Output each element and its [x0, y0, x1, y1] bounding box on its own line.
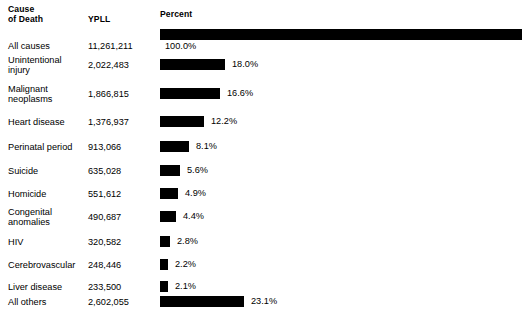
row-label-cause-line1: Unintentional — [8, 55, 62, 65]
bar-percent-label: 100.0% — [165, 41, 196, 52]
row-label-cause-line1: Suicide — [8, 166, 38, 177]
row-label-cause-line2: neoplasms — [8, 94, 52, 104]
bar — [160, 188, 178, 199]
column-header-cause-of-death: Cause of Death — [8, 4, 43, 25]
row-bar-group: 5.6% — [160, 165, 522, 176]
bar — [160, 59, 225, 70]
column-header-cause-line1: Cause — [8, 4, 43, 14]
row-value-ypll: 1,376,937 — [88, 117, 129, 128]
row-label-cause-line1: Liver disease — [8, 282, 62, 293]
row-label-cause: Heart disease — [8, 117, 65, 128]
row-label-cause-line1: All others — [8, 297, 46, 308]
row-label-cause-line2: injury — [8, 65, 62, 75]
bar-percent-label: 8.1% — [196, 141, 217, 152]
bar-percent-label: 4.4% — [183, 211, 204, 222]
column-header-cause-line2: of Death — [8, 14, 43, 24]
row-label-cause-line1: Homicide — [8, 189, 46, 200]
row-value-ypll: 11,261,211 — [88, 41, 133, 52]
row-label-cause: Malignantneoplasms — [8, 84, 52, 105]
row-bar-group: 2.2% — [160, 259, 522, 270]
row-value-ypll: 320,582 — [88, 237, 121, 248]
row-label-cause-line1: Malignant — [8, 84, 52, 94]
bar-percent-label: 2.1% — [175, 281, 196, 292]
row-value-ypll: 2,022,483 — [88, 60, 129, 71]
bar-percent-label: 23.1% — [251, 296, 277, 307]
row-label-cause: Liver disease — [8, 282, 62, 293]
bar — [160, 88, 220, 99]
row-bar-group: 100.0% — [160, 29, 522, 40]
row-label-cause-line1: Heart disease — [8, 117, 65, 128]
row-value-ypll: 490,687 — [88, 212, 121, 223]
row-bar-group: 18.0% — [160, 59, 522, 70]
row-bar-group: 8.1% — [160, 141, 522, 152]
row-value-ypll: 913,066 — [88, 142, 121, 153]
bar — [160, 296, 244, 307]
row-bar-group: 2.8% — [160, 236, 522, 247]
bar-percent-label: 5.6% — [187, 165, 208, 176]
bar — [160, 116, 204, 127]
row-value-ypll: 551,612 — [88, 189, 121, 200]
chart-canvas: Cause of Death YPLL Percent All causes11… — [0, 0, 528, 318]
row-label-cause: Perinatal period — [8, 142, 72, 153]
bar — [160, 236, 170, 247]
row-value-ypll: 233,500 — [88, 282, 121, 293]
row-label-cause: All others — [8, 297, 46, 308]
row-label-cause-line1: Perinatal period — [8, 142, 72, 153]
row-value-ypll: 248,446 — [88, 260, 121, 271]
row-label-cause: Suicide — [8, 166, 38, 177]
column-header-percent: Percent — [160, 9, 192, 19]
row-bar-group: 23.1% — [160, 296, 522, 307]
row-value-ypll: 635,028 — [88, 166, 121, 177]
row-label-cause-line1: HIV — [8, 237, 23, 248]
row-label-cause-line1: Congenital — [8, 207, 52, 217]
row-label-cause: Cerebrovascular — [8, 260, 75, 271]
row-label-cause-line1: All causes — [8, 41, 50, 52]
bar — [160, 165, 180, 176]
row-bar-group: 4.9% — [160, 188, 522, 199]
bar-percent-label: 2.8% — [177, 236, 198, 247]
bar-percent-label: 16.6% — [227, 88, 253, 99]
bar-percent-label: 18.0% — [232, 59, 258, 70]
row-label-cause: Homicide — [8, 189, 46, 200]
row-label-cause: All causes — [8, 41, 50, 52]
bar — [160, 211, 176, 222]
bar-percent-label: 4.9% — [185, 188, 206, 199]
row-label-cause: Congenitalanomalies — [8, 207, 52, 228]
row-label-cause: Unintentionalinjury — [8, 55, 62, 76]
bar-percent-label: 12.2% — [211, 116, 237, 127]
row-bar-group: 16.6% — [160, 88, 522, 99]
row-bar-group: 2.1% — [160, 281, 522, 292]
row-value-ypll: 2,602,055 — [88, 297, 129, 308]
row-value-ypll: 1,866,815 — [88, 89, 129, 100]
bar — [160, 29, 522, 40]
bar-percent-label: 2.2% — [175, 259, 196, 270]
row-bar-group: 4.4% — [160, 211, 522, 222]
bar — [160, 141, 189, 152]
row-bar-group: 12.2% — [160, 116, 522, 127]
bar — [160, 281, 168, 292]
row-label-cause-line2: anomalies — [8, 217, 52, 227]
row-label-cause: HIV — [8, 237, 23, 248]
row-label-cause-line1: Cerebrovascular — [8, 260, 75, 271]
column-header-ypll: YPLL — [88, 14, 110, 24]
bar — [160, 259, 168, 270]
